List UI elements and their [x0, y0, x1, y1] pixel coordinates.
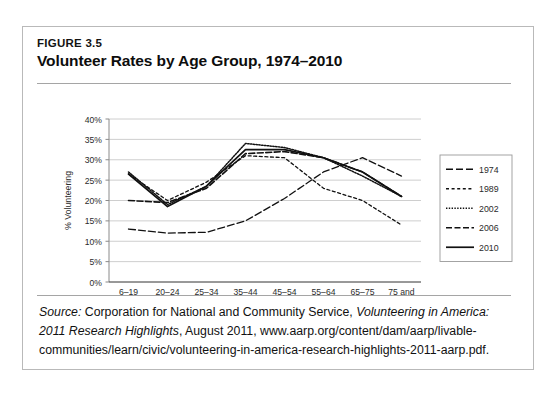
chart-region: 0%5%10%15%20%25%30%35%40% 6–1920–2425–34… — [23, 87, 535, 299]
source-label: Source: — [39, 305, 81, 319]
legend-label-2010: 2010 — [479, 243, 499, 253]
x-tick-label-cont: older — [392, 298, 411, 299]
y-tick-label: 20% — [85, 196, 103, 206]
legend-label-1974: 1974 — [479, 165, 499, 175]
figure-header: FIGURE 3.5 Volunteer Rates by Age Group,… — [37, 36, 507, 70]
legend-label-1989: 1989 — [479, 184, 499, 194]
source-note: Source: Corporation for National and Com… — [39, 303, 517, 361]
series-lines — [129, 143, 402, 233]
series-line-1974 — [129, 158, 402, 233]
line-chart: 0%5%10%15%20%25%30%35%40% 6–1920–2425–34… — [23, 87, 535, 299]
figure-number: FIGURE 3.5 — [37, 36, 507, 50]
y-tick-label: 5% — [90, 257, 103, 267]
y-tick-label: 15% — [85, 216, 103, 226]
y-tick-label: 0% — [90, 278, 103, 288]
figure-container: FIGURE 3.5 Volunteer Rates by Age Group,… — [22, 26, 534, 370]
header-divider — [37, 83, 511, 84]
chart-legend: 19741989200220062010 — [440, 155, 512, 262]
series-line-1989 — [129, 156, 402, 225]
figure-title: Volunteer Rates by Age Group, 1974–2010 — [37, 51, 507, 70]
x-axis-tick-labels: 6–1920–2425–3435–4445–5455–6465–7575 and… — [119, 287, 415, 299]
legend-label-2006: 2006 — [479, 223, 499, 233]
y-tick-label: 10% — [85, 237, 103, 247]
y-tick-label: 30% — [85, 155, 103, 165]
grid-lines — [109, 119, 421, 282]
series-line-2006 — [129, 152, 402, 203]
source-divider — [37, 295, 511, 296]
source-text-before: Corporation for National and Community S… — [81, 305, 356, 319]
legend-box — [440, 155, 512, 262]
y-tick-label: 40% — [85, 115, 103, 125]
y-tick-label: 35% — [85, 135, 103, 145]
y-axis-tick-labels: 0%5%10%15%20%25%30%35%40% — [85, 115, 109, 288]
y-axis-title: % Volunteering — [63, 171, 73, 230]
legend-label-2002: 2002 — [479, 204, 499, 214]
y-tick-label: 25% — [85, 176, 103, 186]
